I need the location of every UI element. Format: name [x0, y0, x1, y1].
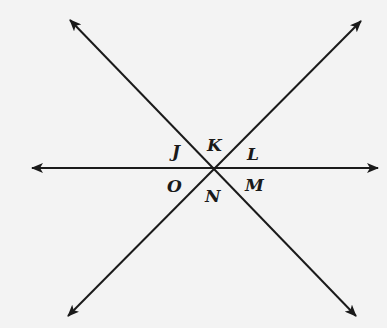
- angle-label-j: J: [172, 143, 180, 160]
- diagram-canvas: J K L O N M: [0, 0, 387, 328]
- intersecting-lines-figure: [0, 0, 387, 328]
- angle-label-m: M: [245, 177, 264, 194]
- angle-label-o: O: [167, 178, 182, 195]
- angle-label-k: K: [207, 137, 222, 154]
- angle-label-l: L: [247, 146, 259, 163]
- angle-label-n: N: [205, 188, 221, 205]
